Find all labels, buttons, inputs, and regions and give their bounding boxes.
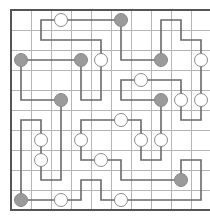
black-pearl-icon xyxy=(155,54,168,67)
masyu-board[interactable] xyxy=(0,0,210,219)
white-pearl-icon xyxy=(195,54,208,67)
black-pearl-icon xyxy=(175,174,188,187)
black-pearl-icon xyxy=(15,194,28,207)
white-pearl-icon xyxy=(135,74,148,87)
black-pearl-icon xyxy=(75,54,88,67)
white-pearl-icon xyxy=(95,154,108,167)
black-pearl-icon xyxy=(55,94,68,107)
white-pearl-icon xyxy=(95,54,108,67)
white-pearl-icon xyxy=(195,94,208,107)
white-pearl-icon xyxy=(75,134,88,147)
white-pearl-icon xyxy=(115,114,128,127)
white-pearl-icon xyxy=(135,134,148,147)
white-pearl-icon xyxy=(35,134,48,147)
black-pearl-icon xyxy=(15,54,28,67)
black-pearl-icon xyxy=(155,94,168,107)
white-pearl-icon xyxy=(55,14,68,27)
white-pearl-icon xyxy=(35,154,48,167)
white-pearl-icon xyxy=(55,194,68,207)
white-pearl-icon xyxy=(115,194,128,207)
white-pearl-icon xyxy=(175,94,188,107)
white-pearl-icon xyxy=(155,134,168,147)
black-pearl-icon xyxy=(115,14,128,27)
